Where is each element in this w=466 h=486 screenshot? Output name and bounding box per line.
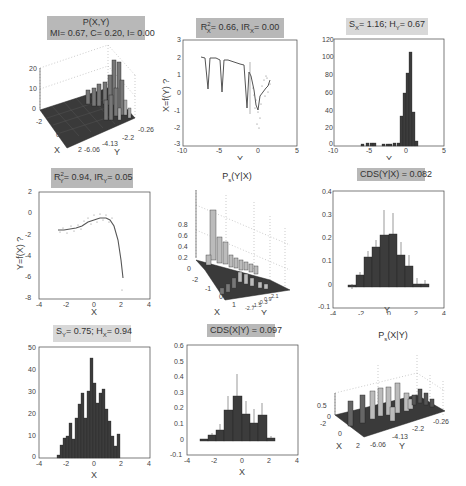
ytick: 2 xyxy=(177,54,181,61)
ztick: 0.5 xyxy=(317,402,327,409)
ytick: -0.1 xyxy=(170,451,182,458)
panel-conditional-x-given-y: Ps(X|Y) 0.5 0 -2 0 2 X -6.06 -4.13 -2.2 … xyxy=(300,315,466,486)
y-axis-label: Y xyxy=(261,308,267,315)
panel-y-of-x-regression: R2Y= 0.94, IRY= 0.05 2 0 -2 -4 -6 -8 -4 … xyxy=(0,160,155,315)
xtick: -4 xyxy=(184,457,190,464)
x-axis-label: X xyxy=(336,441,342,451)
ytick: 20 xyxy=(325,124,333,131)
ztick: 0.4 xyxy=(178,243,188,250)
xtick: 5 xyxy=(295,147,299,154)
ytick: 100 xyxy=(322,53,334,60)
xtick: -10 xyxy=(328,147,338,154)
ztick: 0 xyxy=(32,105,36,112)
panel-x-histogram: SY= 0.75; HX= 0.94 50 40 30 20 10 0 -4 -… xyxy=(0,315,155,486)
xtick: 2 xyxy=(119,460,123,467)
y-axis-label: X=f(Y) ? xyxy=(161,79,171,112)
ytick: 0.6 xyxy=(174,342,184,349)
ytick: 50 xyxy=(28,344,36,351)
ytick: -4 xyxy=(25,252,31,259)
bar-plot-with-errors: 0.6 0.5 0.4 0.3 0.2 0.1 0 -0.1 -4 -2 0 2… xyxy=(150,315,305,486)
ytick: 0.1 xyxy=(322,257,332,264)
ytick: -4.13 xyxy=(102,140,118,147)
histogram: 120 100 80 60 40 20 0 -10 -5 0 5 Y xyxy=(300,0,466,160)
ytick: 0 xyxy=(32,453,36,460)
xtick: -2 xyxy=(36,118,42,125)
ytick: 0.1 xyxy=(174,420,184,427)
panel-y-histogram: SX= 1.16; HY= 0.67 120 100 80 60 40 20 0… xyxy=(300,0,466,160)
ytick: -6.06 xyxy=(370,441,386,448)
ztick: 10 xyxy=(29,85,37,92)
ytick: 0.2 xyxy=(174,404,184,411)
xtick: 0 xyxy=(56,131,60,138)
xtick: 4 xyxy=(295,457,299,464)
ytick: 20 xyxy=(28,410,36,417)
xtick: -2 xyxy=(63,460,69,467)
panel-cds-x-given-y: CDS(X|Y) = 0.097 0.6 0.5 0.4 0.3 0.2 0.1… xyxy=(150,315,305,486)
ytick: 2 xyxy=(28,188,32,195)
ztick: 0.6 xyxy=(178,232,188,239)
ytick: 0.2 xyxy=(322,234,332,241)
ytick: 60 xyxy=(325,89,333,96)
ytick: 0.5 xyxy=(174,358,184,365)
xtick: -10 xyxy=(177,147,187,154)
ytick: 0 xyxy=(28,209,32,216)
xtick: 0 xyxy=(256,147,260,154)
xtick: 2 xyxy=(356,442,360,449)
ztick: 0 xyxy=(327,413,331,420)
ytick: 2.1 xyxy=(271,293,279,299)
ytick: 0 xyxy=(329,140,333,147)
ytick: -2.2 xyxy=(122,134,134,141)
xtick: -1 xyxy=(205,285,211,292)
ytick: -0.26 xyxy=(433,418,449,425)
xtick: 2 xyxy=(78,146,82,153)
ytick: 3 xyxy=(177,36,181,43)
ztick: 20 xyxy=(29,65,37,72)
xtick: -2 xyxy=(63,301,69,308)
ytick: -6 xyxy=(25,273,31,280)
xtick: -5 xyxy=(366,147,372,154)
ytick: 0.3 xyxy=(174,389,184,396)
panel-joint-distribution: P(X,Y) MI= 0.67, C= 0.20, I= 0.00 20 10 … xyxy=(0,0,155,160)
panel-conditional-y-given-x: Ps(Y|X) 0.8 0.6 0.4 0.2 0 -2 -1 0 1 X -2… xyxy=(150,160,305,315)
ztick: 0.8 xyxy=(178,221,188,228)
bar3d-plot: 0.5 0 -2 0 2 X -6.06 -4.13 -2.2 -0.26 Y xyxy=(300,315,466,486)
ytick: 0.4 xyxy=(322,188,332,195)
ytick: -2 xyxy=(174,124,180,131)
xtick: -5 xyxy=(216,147,222,154)
xtick: -2 xyxy=(320,420,326,427)
ytick: -0.1 xyxy=(318,303,330,310)
y-axis-label: Y xyxy=(399,441,405,451)
ytick: 0 xyxy=(177,89,181,96)
xtick: 2 xyxy=(267,457,271,464)
panel-x-of-y-regression: R2X= 0.66, IRX= 0.00 3 2 1 0 -1 -2 -3 -1… xyxy=(150,0,305,160)
xtick: 1 xyxy=(232,301,236,308)
line-plot: 2 0 -2 -4 -6 -8 -4 -2 0 2 4 X Y=f(X) ? xyxy=(0,160,155,315)
ztick: 0.2 xyxy=(178,254,188,261)
xtick: 5 xyxy=(442,147,446,154)
x-axis-label: X xyxy=(214,307,220,315)
ytick: -2 xyxy=(25,231,31,238)
xtick: -4 xyxy=(36,301,42,308)
ytick: 10 xyxy=(28,432,36,439)
ytick: -8 xyxy=(25,294,31,301)
ytick: -4.13 xyxy=(392,433,408,440)
x-axis-label: Y xyxy=(384,305,390,315)
xtick: 0 xyxy=(92,460,96,467)
y-axis-label: Y=f(X) ? xyxy=(15,237,25,270)
x-axis-label: X xyxy=(54,145,60,155)
ytick: 40 xyxy=(325,107,333,114)
x-axis-label: X xyxy=(91,470,97,480)
x-axis-label: X xyxy=(239,467,245,477)
bar3d-plot: 0.8 0.6 0.4 0.2 0 -2 -1 0 1 X -2.7 -1.5 … xyxy=(150,160,305,315)
ytick: -6.06 xyxy=(84,146,100,153)
ytick: 0 xyxy=(180,436,184,443)
xtick: 2 xyxy=(119,301,123,308)
xtick: 0 xyxy=(338,430,342,437)
ytick: 1 xyxy=(177,71,181,78)
xtick: 0 xyxy=(404,147,408,154)
xtick: -2 xyxy=(192,276,198,283)
panel-cds-y-given-x: CDS(Y|X) = 0.082 0.4 0.3 0.2 0.1 0 -0.1 … xyxy=(300,160,466,315)
ytick: -1 xyxy=(174,107,180,114)
bar3d-plot: 20 10 0 -2 0 2 X -6.06 -4.13 -2.2 -0.26 … xyxy=(0,0,155,160)
xtick: -4 xyxy=(36,460,42,467)
